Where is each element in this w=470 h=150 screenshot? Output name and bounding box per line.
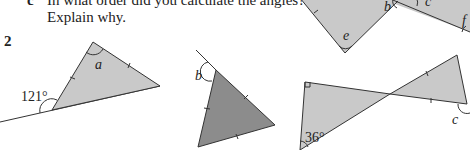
- top-right-figure: e b c f: [300, 0, 470, 53]
- angle-label-b: b: [195, 68, 202, 83]
- angle-label-121: 121°: [21, 89, 48, 104]
- figure-1-triangle: a 121°: [0, 42, 160, 122]
- figure-3-bowtie: 36° c: [300, 55, 470, 150]
- angle-label-36: 36°: [305, 130, 325, 145]
- angle-label-b-top: b: [384, 0, 391, 14]
- angle-label-a: a: [95, 57, 102, 72]
- angle-label-c: c: [452, 112, 459, 127]
- figure-2-triangle: b: [195, 50, 275, 147]
- angle-label-e: e: [343, 28, 349, 43]
- geometry-figures: e b c f a 121° b 36° c: [0, 0, 470, 150]
- angle-label-c-top: c: [425, 0, 432, 9]
